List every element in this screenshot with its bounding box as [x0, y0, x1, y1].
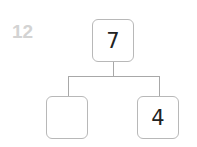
- part-box-left[interactable]: [46, 96, 88, 139]
- connector-line-right: [159, 76, 160, 96]
- whole-value: 7: [106, 29, 119, 53]
- connector-line-horizontal: [68, 76, 160, 77]
- problem-number: 12: [12, 21, 33, 43]
- connector-line-top: [113, 62, 114, 76]
- part-box-right: 4: [137, 96, 179, 139]
- connector-line-left: [68, 76, 69, 96]
- whole-box: 7: [92, 19, 134, 62]
- part-right-value: 4: [151, 106, 164, 130]
